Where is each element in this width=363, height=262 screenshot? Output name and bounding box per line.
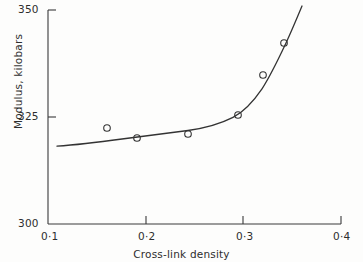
data-point-marker: [260, 72, 267, 79]
plot-area: [0, 0, 363, 262]
x-tick-label-0-2: 0·2: [138, 230, 155, 242]
y-tick-label-300: 300: [18, 217, 39, 229]
fitted-curve: [57, 6, 302, 146]
y-axis-title-wrap: Modulus, kilobars: [7, 22, 26, 142]
x-tick-label-0-1: 0·1: [41, 230, 58, 242]
chart-figure: 350 325 300 0·1 0·2 0·3 0·4 Modulus, kil…: [0, 0, 363, 262]
x-axis-title-wrap: Cross-link density: [0, 243, 363, 262]
x-tick-label-0-3: 0·3: [236, 230, 253, 242]
data-point-marker: [185, 131, 192, 138]
data-point-marker: [104, 125, 111, 132]
y-tick-label-350: 350: [18, 3, 39, 15]
y-axis-title: Modulus, kilobars: [12, 34, 24, 129]
x-axis-title: Cross-link density: [133, 248, 230, 260]
x-tick-label-0-4: 0·4: [333, 230, 350, 242]
